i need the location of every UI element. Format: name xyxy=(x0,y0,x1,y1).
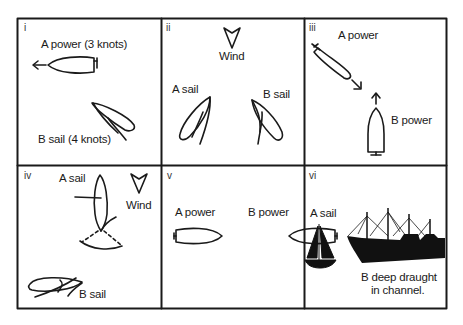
panel-ii-boat-a-sail-icon xyxy=(180,97,211,144)
panel-ii-boat-b-sail-icon xyxy=(252,100,282,144)
panel-vi-cargo-ship-silhouette-icon xyxy=(347,208,445,263)
panel-i-label-b: B sail (4 knots) xyxy=(38,133,111,145)
panel-iv-wind-arrow-icon xyxy=(131,174,147,193)
diagram-grid: i A power (3 knots) B sail (4 knots) ii … xyxy=(0,0,463,325)
panel-iii-label-b: B power xyxy=(391,114,432,126)
panel-i-label-a: A power (3 knots) xyxy=(41,38,127,50)
panel-iv-boat-a-sail-icon xyxy=(75,175,122,249)
panel-vi-number: vi xyxy=(309,170,316,181)
panel-vi-label-a: A sail xyxy=(310,207,336,219)
panel-iv-boat-b-sail-icon xyxy=(29,278,82,297)
panel-iii-number: iii xyxy=(309,22,316,33)
panel-iv-number: iv xyxy=(24,170,31,181)
panel-iv-label-b: B sail xyxy=(79,288,106,300)
panel-ii-label-a: A sail xyxy=(172,83,198,95)
panel-vi-label-b-line1: B deep draught xyxy=(361,271,437,283)
panel-ii-wind-arrow-icon xyxy=(224,28,240,48)
panel-iv-label-a: A sail xyxy=(59,172,85,184)
panel-vi-sailboat-silhouette-icon xyxy=(305,224,336,268)
panel-v-number: v xyxy=(167,170,172,181)
panel-ii-label-b: B sail xyxy=(263,88,290,100)
panel-v-label-b: B power xyxy=(248,206,289,218)
panel-ii-label-wind: Wind xyxy=(219,50,244,62)
panel-ii-number: ii xyxy=(166,22,170,33)
panel-v-boat-a-power-icon xyxy=(174,228,222,243)
panel-i-number: i xyxy=(24,22,26,33)
panel-iii-boat-a-power-icon xyxy=(312,44,361,89)
panel-v-label-a: A power xyxy=(175,206,215,218)
panel-iv-label-wind: Wind xyxy=(126,199,151,211)
grid-border xyxy=(18,19,447,309)
panel-iii-label-a: A power xyxy=(338,29,378,41)
panel-iii-boat-b-power-icon xyxy=(368,93,384,155)
panel-vi-label-b-line2: in channel. xyxy=(371,284,424,296)
panel-i-boat-a-power-icon xyxy=(33,57,97,73)
